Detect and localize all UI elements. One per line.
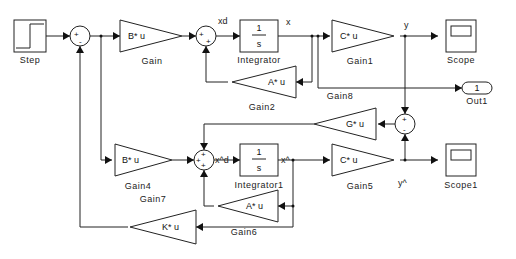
- gain-block[interactable]: B* u Gain: [120, 20, 182, 66]
- sum4-block[interactable]: + -: [395, 114, 415, 134]
- gain1-block[interactable]: C* u Gain1: [332, 20, 394, 66]
- sum2-block[interactable]: + +: [196, 26, 216, 46]
- scope1-block[interactable]: Scope1: [444, 144, 478, 190]
- svg-text:K* u: K* u: [162, 222, 179, 232]
- gain-label: Gain: [141, 56, 162, 66]
- svg-text:-: -: [403, 125, 406, 134]
- gain1-label: Gain1: [347, 56, 374, 66]
- svg-text:B* u: B* u: [122, 155, 139, 165]
- sum3-block[interactable]: + + +: [194, 150, 214, 170]
- svg-text:+: +: [206, 37, 211, 46]
- simulink-diagram-canvas: Step + - B* u Gain + + xd 1 s Integrator…: [0, 0, 516, 259]
- step-label: Step: [20, 55, 41, 65]
- scope-block[interactable]: Scope: [446, 20, 476, 65]
- scope-label: Scope: [447, 55, 475, 65]
- svg-text:A* u: A* u: [268, 77, 285, 87]
- svg-text:1: 1: [256, 147, 261, 157]
- gain4-label: Gain4: [125, 181, 152, 191]
- signal-xhat-d: x^d: [215, 155, 229, 165]
- svg-text:+: +: [201, 150, 206, 159]
- svg-text:+: +: [199, 30, 204, 39]
- svg-text:A* u: A* u: [246, 201, 263, 211]
- svg-text:B* u: B* u: [128, 31, 145, 41]
- gain2-label: Gain2: [249, 102, 276, 112]
- scope1-screen-icon: [451, 150, 471, 160]
- svg-text:C* u: C* u: [340, 155, 358, 165]
- svg-text:s: s: [257, 39, 262, 49]
- integrator1-block[interactable]: 1 s Integrator1: [234, 144, 283, 190]
- step-block[interactable]: Step: [14, 20, 46, 65]
- svg-text:1: 1: [256, 23, 261, 33]
- scope1-label: Scope1: [444, 180, 478, 190]
- scope-screen-icon: [451, 26, 471, 36]
- gain-g-block[interactable]: G* u: [314, 108, 376, 140]
- integrator1-label: Integrator1: [234, 180, 283, 190]
- integrator-label: Integrator: [237, 55, 281, 65]
- out1-label: Out1: [466, 96, 488, 106]
- signal-xhat: x^: [281, 155, 291, 165]
- gain-k-block[interactable]: K* u: [130, 210, 196, 244]
- sum1-block[interactable]: + -: [70, 26, 90, 46]
- gain4-block[interactable]: B* u Gain4: [115, 144, 172, 191]
- svg-text:1: 1: [474, 83, 479, 93]
- svg-text:+: +: [201, 161, 206, 170]
- gain6-block[interactable]: A* u Gain6: [218, 190, 278, 237]
- gain5-label: Gain5: [347, 181, 374, 191]
- signal-xd: xd: [218, 16, 228, 26]
- gain6-label: Gain6: [231, 227, 258, 237]
- svg-text:-: -: [79, 37, 82, 46]
- gain5-block[interactable]: C* u Gain5: [332, 144, 394, 191]
- gain8-label: Gain8: [327, 91, 354, 101]
- gain2-block[interactable]: A* u Gain2: [232, 66, 296, 112]
- signal-y: y: [404, 20, 409, 30]
- svg-text:s: s: [257, 163, 262, 173]
- svg-text:G* u: G* u: [346, 119, 364, 129]
- signal-x: x: [286, 17, 291, 27]
- svg-text:+: +: [402, 115, 407, 124]
- integrator-block[interactable]: 1 s Integrator: [237, 20, 281, 65]
- out1-port[interactable]: 1 Out1: [462, 82, 492, 106]
- svg-text:C* u: C* u: [340, 31, 358, 41]
- signal-yhat: y^: [398, 178, 408, 188]
- gain7-label: Gain7: [140, 194, 167, 204]
